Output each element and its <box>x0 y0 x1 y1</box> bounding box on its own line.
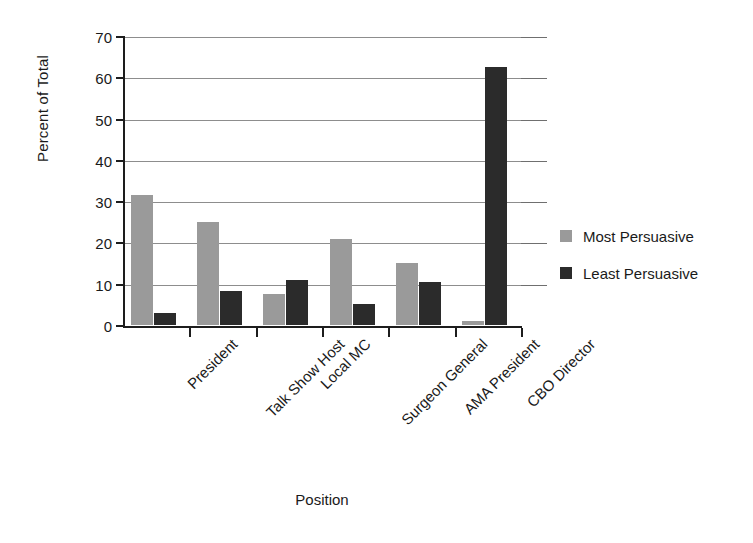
y-axis-title: Percent of Total <box>34 19 51 199</box>
y-tick-mark-right <box>521 78 547 79</box>
x-tick-mark <box>388 328 390 337</box>
x-tick-mark <box>455 328 457 337</box>
x-axis-title: Position <box>123 491 521 508</box>
y-tick-mark <box>116 242 125 244</box>
bar-most-persuasive <box>396 263 418 325</box>
y-tick-label: 0 <box>104 319 112 334</box>
gridline <box>123 37 521 38</box>
gridline <box>123 78 521 79</box>
legend-swatch-icon-least <box>560 267 572 279</box>
bar-most-persuasive <box>263 294 285 325</box>
y-tick-mark-right <box>521 120 547 121</box>
bar-least-persuasive <box>286 280 308 325</box>
y-tick-mark-right <box>521 243 547 244</box>
y-tick-mark <box>116 325 125 327</box>
bar-chart: Percent of Total 010203040506070 Preside… <box>0 0 753 543</box>
x-tick-mark <box>189 328 191 337</box>
y-tick-label: 20 <box>95 236 112 251</box>
y-tick-mark-right <box>521 202 547 203</box>
bar-least-persuasive <box>485 67 507 325</box>
legend-item-most-persuasive: Most Persuasive <box>560 228 698 244</box>
legend-swatch-icon-most <box>560 230 572 242</box>
legend-label-least: Least Persuasive <box>583 266 698 281</box>
x-tick-mark <box>256 328 258 337</box>
bar-most-persuasive <box>462 321 484 325</box>
legend-item-least-persuasive: Least Persuasive <box>560 265 698 281</box>
y-tick-label: 30 <box>95 195 112 210</box>
bar-least-persuasive <box>353 304 375 325</box>
x-tick-mark <box>322 328 324 337</box>
y-tick-mark-right <box>521 37 547 38</box>
y-tick-label: 50 <box>95 112 112 127</box>
bar-least-persuasive <box>154 313 176 325</box>
x-tick-mark <box>521 328 523 337</box>
y-tick-mark-right <box>521 161 547 162</box>
bar-most-persuasive <box>197 222 219 325</box>
chart-legend: Most Persuasive Least Persuasive <box>560 228 698 302</box>
y-tick-mark <box>116 119 125 121</box>
legend-label-most: Most Persuasive <box>583 229 694 244</box>
plot-area: 010203040506070 <box>123 37 521 327</box>
x-category-label: Surgeon General <box>399 336 490 427</box>
y-tick-mark <box>116 77 125 79</box>
y-tick-mark <box>116 160 125 162</box>
gridline <box>123 285 521 286</box>
gridline <box>123 202 521 203</box>
y-tick-mark <box>116 284 125 286</box>
bar-least-persuasive <box>419 282 441 325</box>
y-tick-label: 40 <box>95 153 112 168</box>
bar-most-persuasive <box>131 195 153 325</box>
y-tick-label: 10 <box>95 277 112 292</box>
bar-most-persuasive <box>330 239 352 325</box>
y-tick-mark <box>116 201 125 203</box>
gridline <box>123 120 521 121</box>
gridline <box>123 243 521 244</box>
y-tick-mark <box>116 36 125 38</box>
x-category-label: President <box>185 336 240 391</box>
bar-least-persuasive <box>220 291 242 325</box>
gridline <box>123 161 521 162</box>
y-tick-label: 70 <box>95 30 112 45</box>
y-tick-label: 60 <box>95 71 112 86</box>
y-tick-mark-right <box>521 285 547 286</box>
